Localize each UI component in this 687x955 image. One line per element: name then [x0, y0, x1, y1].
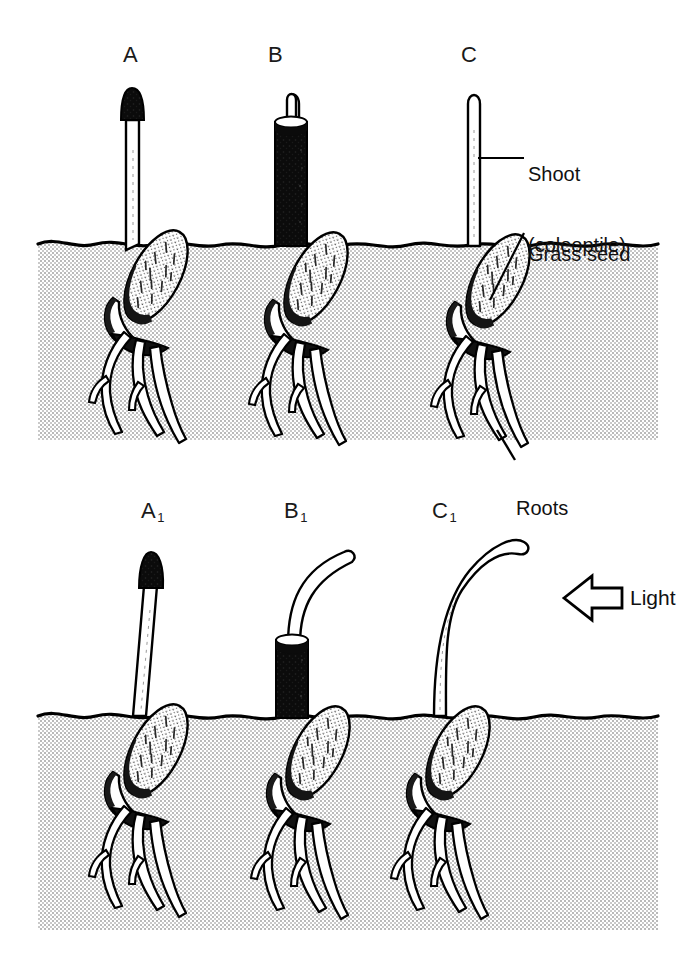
- specimen-label-C1-text: C: [432, 498, 448, 523]
- light-arrow-icon: [564, 576, 622, 620]
- specimen-label-B1: B1: [284, 500, 307, 522]
- specimen-label-B: B: [268, 44, 283, 66]
- specimen-label-C1-subscript: 1: [449, 510, 457, 525]
- coleoptile-C1-bent: [434, 540, 528, 716]
- specimen-label-A-text: A: [123, 42, 138, 67]
- black-cap-A1: [139, 552, 163, 588]
- callout-grass-seed: Grass seed: [528, 196, 630, 314]
- specimen-label-B1-text: B: [284, 498, 299, 523]
- black-cap-A: [121, 88, 144, 120]
- specimen-label-C1: C1: [432, 500, 456, 522]
- light-label: Light: [630, 586, 676, 610]
- black-tube-B1: [276, 635, 308, 719]
- specimen-label-C: C: [461, 44, 477, 66]
- callout-roots-line1: Roots: [516, 497, 568, 521]
- callout-shoot-line1: Shoot: [528, 163, 626, 187]
- specimen-label-A1-subscript: 1: [157, 510, 165, 525]
- specimen-label-A1-text: A: [141, 498, 156, 523]
- phototropism-figure: A B C Shoot (coleoptile) Grass seed Root…: [0, 0, 687, 955]
- black-tube-B: [275, 117, 307, 247]
- specimen-label-C-text: C: [461, 42, 477, 67]
- coleoptile-B1-tip-bent: [288, 551, 354, 644]
- specimen-label-B-text: B: [268, 42, 283, 67]
- specimen-label-A: A: [123, 44, 138, 66]
- specimen-label-A1: A1: [141, 500, 164, 522]
- light-label-text: Light: [630, 586, 676, 609]
- callout-grass-seed-line1: Grass seed: [528, 243, 630, 267]
- callout-roots: Roots: [516, 450, 568, 568]
- panel-bottom-artwork: [38, 540, 658, 930]
- specimen-label-B1-subscript: 1: [300, 510, 308, 525]
- coleoptile-A1: [133, 586, 157, 716]
